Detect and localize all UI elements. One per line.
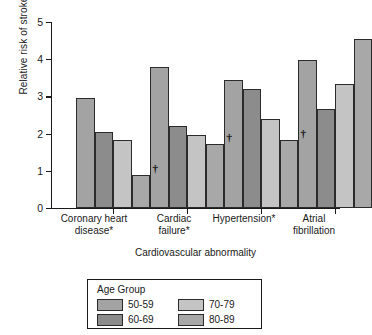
bar	[113, 140, 132, 208]
bar	[95, 132, 114, 208]
legend-label-3: 80-89	[209, 314, 235, 326]
bar	[280, 140, 299, 208]
bar	[335, 84, 354, 208]
legend-swatch-2	[97, 314, 123, 326]
significance-marker: †	[301, 128, 307, 139]
bar	[224, 80, 243, 208]
y-tick-4	[46, 59, 51, 60]
y-tick-label-4: 4	[19, 54, 43, 64]
significance-marker: †	[227, 132, 233, 143]
y-axis-line	[51, 22, 52, 208]
x-group-label-0: Coronary heart disease*	[46, 213, 142, 236]
bar	[76, 98, 95, 208]
x-group-label-2-line1: Hypertension*	[203, 213, 285, 225]
legend-swatch-1	[178, 299, 204, 311]
bar	[169, 126, 188, 208]
bar	[243, 89, 262, 208]
x-group-label-0-line1: Coronary heart	[46, 213, 142, 225]
legend: Age Group 50-59 70-79 60-69 80-89	[87, 279, 262, 329]
y-tick-label-0: 0	[19, 203, 43, 213]
plot-area: 0 1 2 3 4 5 †††	[51, 22, 340, 208]
x-group-label-0-line2: disease*	[46, 225, 142, 237]
y-tick-label-1: 1	[19, 166, 43, 176]
legend-title: Age Group	[97, 284, 145, 295]
y-tick-label-2: 2	[19, 129, 43, 139]
legend-swatch-3	[178, 314, 204, 326]
x-axis-title: Cardiovascular abnormality	[51, 247, 340, 258]
x-group-label-1-line1: Cardiac	[145, 213, 203, 225]
x-group-label-3-line2: fibrillation	[283, 225, 345, 237]
x-group-label-1-line2: failure*	[145, 225, 203, 237]
y-tick-2	[46, 134, 51, 135]
legend-label-2: 60-69	[128, 314, 154, 326]
x-group-label-2: Hypertension*	[203, 213, 285, 225]
bar	[261, 119, 280, 208]
bar	[206, 144, 225, 208]
y-tick-3	[46, 96, 51, 97]
legend-swatch-0	[97, 299, 123, 311]
y-tick-0	[46, 208, 51, 209]
y-tick-label-5: 5	[19, 17, 43, 27]
legend-label-1: 70-79	[209, 299, 235, 311]
y-tick-1	[46, 171, 51, 172]
significance-marker: †	[153, 163, 159, 174]
bar	[317, 109, 336, 208]
x-group-label-3: Atrial fibrillation	[283, 213, 345, 236]
legend-label-0: 50-59	[128, 299, 154, 311]
bar	[150, 67, 169, 208]
bar	[132, 175, 151, 208]
bar	[354, 39, 372, 208]
x-group-label-1: Cardiac failure*	[145, 213, 203, 236]
bar	[187, 135, 206, 208]
y-tick-label-3: 3	[19, 91, 43, 101]
y-tick-5	[46, 22, 51, 23]
x-group-label-3-line1: Atrial	[283, 213, 345, 225]
x-axis-line	[51, 208, 340, 209]
